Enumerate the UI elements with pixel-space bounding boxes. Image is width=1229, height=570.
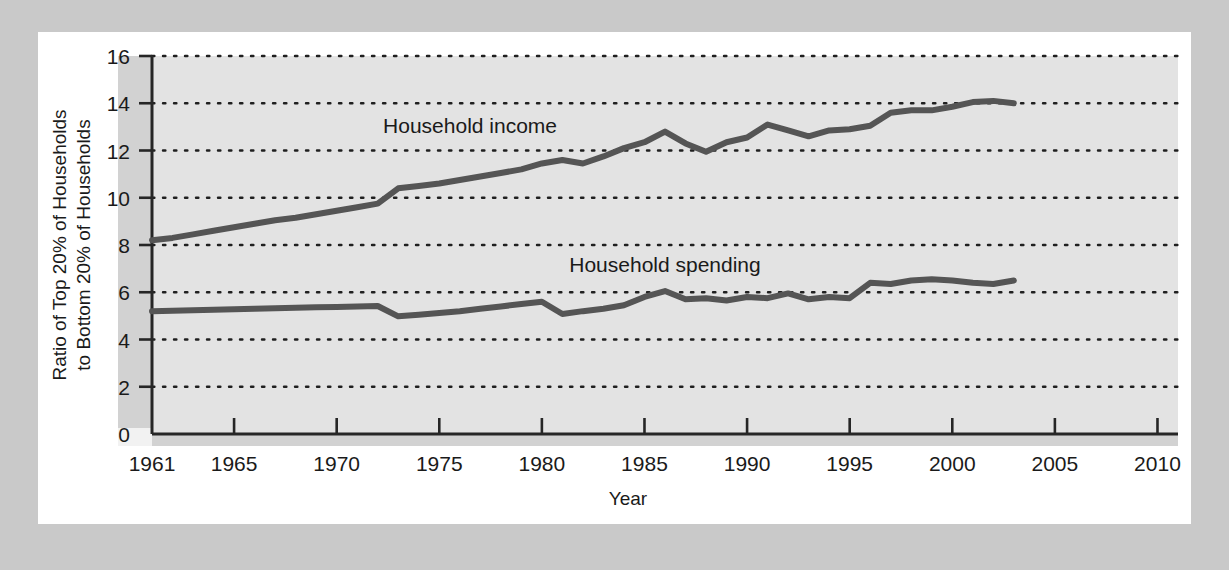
y-tick-labels-group: 0246810121416 [107, 45, 131, 446]
y-tick-label: 12 [107, 140, 130, 163]
y-tick-label: 8 [118, 234, 130, 257]
x-tick-label: 1980 [519, 452, 566, 475]
x-tick-label: 1965 [211, 452, 258, 475]
series-label-household-income: Household income [383, 114, 557, 137]
x-tick-labels-group: 1961196519701975198019851990199520002005… [129, 452, 1181, 475]
y-tick-label: 10 [107, 187, 130, 210]
x-tick-label: 2000 [929, 452, 976, 475]
y-axis-title: Ratio of Top 20% of Households to Bottom… [49, 109, 94, 380]
y-tick-label: 16 [107, 45, 130, 68]
x-tick-label: 1961 [129, 452, 176, 475]
x-tick-label: 1985 [621, 452, 668, 475]
x-tick-label: 1975 [416, 452, 463, 475]
y-axis-title-line-1: Ratio of Top 20% of Households [49, 109, 70, 380]
y-axis-title-line-2: to Bottom 20% of Households [73, 119, 94, 370]
x-tick-label: 2005 [1032, 452, 1079, 475]
series-label-household-spending: Household spending [569, 253, 760, 276]
line-chart: 0246810121416 19611965197019751980198519… [38, 32, 1191, 524]
x-tick-label: 1970 [313, 452, 360, 475]
x-tick-label: 1990 [724, 452, 771, 475]
y-tick-label: 6 [118, 281, 130, 304]
x-tick-label: 1995 [826, 452, 873, 475]
y-tick-label: 14 [107, 92, 131, 115]
y-tick-label: 4 [118, 329, 130, 352]
y-tick-label: 2 [118, 376, 130, 399]
x-tick-label: 2010 [1134, 452, 1181, 475]
x-axis-title: Year [609, 488, 648, 509]
chart-figure-panel: 0246810121416 19611965197019751980198519… [38, 32, 1191, 524]
y-tick-label: 0 [118, 423, 130, 446]
